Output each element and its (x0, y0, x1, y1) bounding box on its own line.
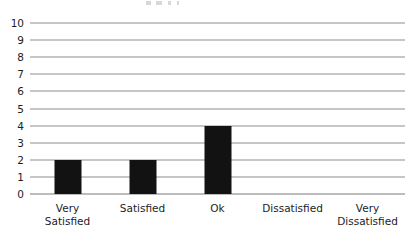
y-tick-label: 10 (11, 18, 24, 29)
y-tick-label: 8 (17, 52, 24, 63)
gridline-5 (30, 108, 405, 109)
y-tick-label: 2 (17, 155, 24, 166)
bar-chart: 109876543210 VerySatisfiedSatisfiedOkDis… (0, 0, 418, 240)
bar (204, 126, 231, 194)
gridline-10 (30, 23, 405, 24)
gridline-8 (30, 57, 405, 58)
y-tick-label: 6 (17, 86, 24, 97)
plot-area: 109876543210 (30, 23, 405, 194)
cropped-title-artifact (144, 0, 204, 6)
bar (129, 160, 156, 194)
x-axis-label: VeryDissatisfied (322, 202, 414, 227)
y-tick-label: 7 (17, 69, 24, 80)
y-tick-label: 4 (17, 120, 24, 131)
y-tick-label: 1 (17, 172, 24, 183)
y-tick-label: 9 (17, 35, 24, 46)
gridline-9 (30, 40, 405, 41)
gridline-6 (30, 91, 405, 92)
y-tick-label: 5 (17, 103, 24, 114)
y-tick-label: 0 (17, 189, 24, 200)
gridline-7 (30, 74, 405, 75)
y-tick-label: 3 (17, 137, 24, 148)
bar (54, 160, 81, 194)
